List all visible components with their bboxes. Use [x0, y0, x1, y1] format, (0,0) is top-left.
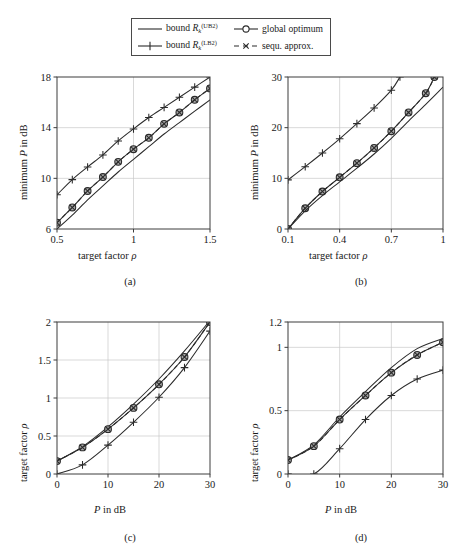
y-tick-label: 14	[41, 122, 52, 133]
y-tick-label: 2	[46, 317, 51, 328]
subplot-c-xlabel: P in dB	[94, 504, 126, 515]
y-tick-label: 18	[41, 72, 52, 83]
x-tick-label: 20	[154, 479, 165, 490]
x-tick-label: 0	[285, 479, 290, 490]
subplot-d-ylabel: target factor ρ	[249, 424, 260, 483]
y-tick-label: 20	[272, 122, 283, 133]
subplot-d: 010203000.511.2 target factor ρ P in dB …	[231, 300, 463, 559]
subplot-c-ylabel: target factor ρ	[18, 424, 29, 483]
subplot-b-caption: (b)	[341, 276, 381, 287]
subplot-c-caption: (c)	[110, 532, 150, 543]
x-tick-label: 0.1	[281, 234, 294, 245]
y-tick-label: 1	[277, 342, 282, 353]
subplot-b-xlabel: target factor ρ	[309, 250, 368, 261]
subplot-c: 010203000.511.52 target factor ρ P in dB…	[0, 300, 231, 559]
y-tick-label: 0	[277, 224, 282, 235]
figure-four-subplots: bound Rk(UB2) global optimum bound Rk(LB…	[0, 0, 463, 559]
y-tick-label: 1	[46, 393, 51, 404]
x-tick-label: 30	[438, 479, 449, 490]
subplot-a-ylabel: minimum P in dB	[18, 124, 29, 200]
y-tick-label: 0	[46, 469, 51, 480]
subplot-d-canvas: 010203000.511.2	[231, 300, 463, 559]
subplot-a: 0.511.56101418 minimum P in dB target fa…	[0, 0, 231, 300]
y-tick-label: 6	[46, 224, 51, 235]
x-tick-label: 1	[131, 234, 136, 245]
subplot-d-xlabel: P in dB	[325, 504, 357, 515]
x-tick-label: 20	[386, 479, 397, 490]
x-tick-label: 1.5	[203, 234, 216, 245]
y-tick-label: 0.5	[269, 405, 282, 416]
x-tick-label: 1	[440, 234, 445, 245]
y-tick-label: 30	[272, 72, 283, 83]
subplot-d-caption: (d)	[341, 532, 381, 543]
subplot-b: 0.10.40.710102030 minimum P in dB target…	[231, 0, 463, 300]
y-tick-label: 0.5	[38, 431, 51, 442]
x-tick-label: 30	[205, 479, 216, 490]
subplot-a-caption: (a)	[110, 276, 150, 287]
x-tick-label: 10	[334, 479, 345, 490]
x-tick-label: 0.7	[385, 234, 398, 245]
y-tick-label: 1.5	[38, 355, 51, 366]
x-tick-label: 0.5	[50, 234, 63, 245]
y-tick-label: 10	[272, 173, 283, 184]
x-tick-label: 10	[103, 479, 114, 490]
x-tick-label: 0.4	[333, 234, 347, 245]
x-tick-label: 0	[54, 479, 59, 490]
subplot-b-ylabel: minimum P in dB	[249, 124, 260, 200]
y-tick-label: 10	[41, 173, 52, 184]
y-tick-label: 1.2	[269, 317, 282, 328]
y-tick-label: 0	[277, 469, 282, 480]
subplot-c-canvas: 010203000.511.52	[0, 300, 231, 559]
subplot-a-xlabel: target factor ρ	[78, 250, 137, 261]
